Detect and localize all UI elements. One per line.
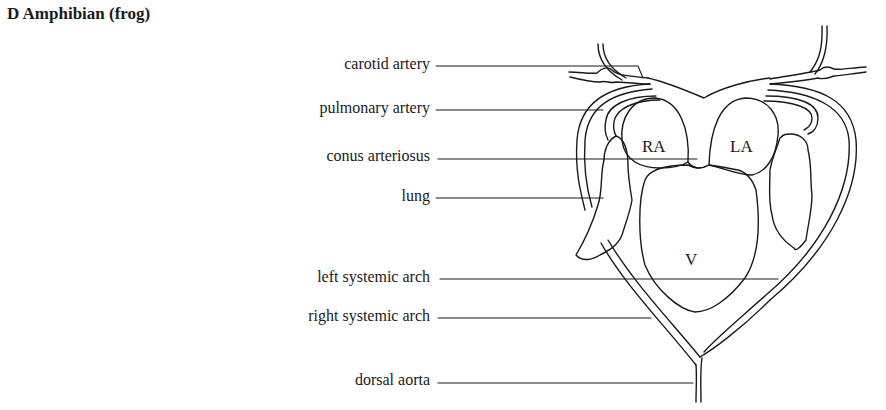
right-atrium bbox=[622, 98, 688, 168]
right-systemic-arch-vessel bbox=[577, 84, 700, 365]
label-la: LA bbox=[730, 137, 753, 156]
pulmonary-artery-left bbox=[605, 96, 660, 140]
dorsal-aorta-vessel bbox=[696, 358, 702, 402]
lung-right bbox=[770, 134, 813, 250]
pulmonary-artery-right bbox=[764, 96, 818, 134]
leader-lines bbox=[436, 66, 778, 383]
label-v: V bbox=[685, 250, 698, 269]
frog-heart-diagram: RA LA V bbox=[0, 0, 886, 410]
ventricle bbox=[640, 165, 759, 312]
truncus-outline bbox=[648, 78, 770, 98]
label-ra: RA bbox=[642, 137, 666, 156]
